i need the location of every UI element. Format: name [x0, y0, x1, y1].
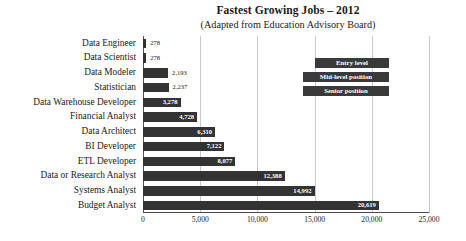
x-tick-label: 20,000 [361, 216, 382, 224]
bar: 6,310 [143, 127, 215, 137]
chart-title-block: Fastest Growing Jobs – 2012 (Adapted fro… [143, 4, 433, 31]
bar-value-label: 2,193 [172, 70, 187, 77]
bar-value-label: 14,992 [293, 188, 314, 195]
bar-row: 12,388 [143, 171, 429, 181]
category-label: Data Warehouse Developer [0, 98, 139, 107]
bar: 14,992 [143, 186, 315, 196]
x-axis-tick-labels: 05,00010,00015,00020,00025,000 [0, 216, 466, 230]
category-label: Data or Research Analyst [0, 171, 139, 180]
category-label: Data Modeler [0, 68, 139, 77]
category-label: Data Architect [0, 127, 139, 136]
gridline-25000 [429, 36, 430, 213]
bar-row: 278 [143, 39, 429, 49]
legend-item[interactable]: Entry level [315, 58, 389, 68]
bar [143, 53, 146, 63]
legend-item[interactable]: Senior position [303, 86, 389, 96]
bar-value-label: 20,619 [358, 202, 379, 209]
category-label: Data Engineer [0, 39, 139, 48]
bar: 20,619 [143, 201, 379, 211]
x-tick-label: 15,000 [304, 216, 325, 224]
bar: 8,077 [143, 157, 235, 167]
category-label: BI Developer [0, 142, 139, 151]
bar: 7,122 [143, 142, 224, 152]
category-label: Systems Analyst [0, 186, 139, 195]
x-tick-label: 0 [141, 216, 145, 224]
legend-item[interactable]: Mid-level position [303, 72, 389, 82]
bar-row: 7,122 [143, 142, 429, 152]
plot-area: 2782782,1932,2373,2784,7286,3107,1228,07… [143, 36, 429, 213]
bar: 3,278 [143, 98, 181, 108]
y-axis-category-labels: Data EngineerData ScientistData ModelerS… [0, 36, 139, 213]
chart-container: Fastest Growing Jobs – 2012 (Adapted fro… [0, 0, 466, 241]
bar-value-label: 12,388 [264, 173, 285, 180]
bar [143, 68, 168, 78]
bar-row: 4,728 [143, 112, 429, 122]
bar-value-label: 6,310 [197, 129, 215, 136]
bar [143, 83, 169, 93]
bar-value-label: 3,278 [163, 99, 181, 106]
bar-row: 14,992 [143, 186, 429, 196]
bar-value-label: 278 [150, 55, 160, 62]
bar-value-label: 7,122 [207, 143, 225, 150]
x-tick-label: 5,000 [192, 216, 209, 224]
bar-row: 8,077 [143, 157, 429, 167]
category-label: Financial Analyst [0, 112, 139, 121]
chart-title: Fastest Growing Jobs – 2012 [143, 4, 433, 18]
bar-value-label: 278 [150, 40, 160, 47]
category-label: ETL Developer [0, 157, 139, 166]
bar [143, 39, 146, 49]
bar-row: 20,619 [143, 201, 429, 211]
x-tick-label: 10,000 [247, 216, 268, 224]
bar-value-label: 2,237 [173, 84, 188, 91]
x-tick-label: 25,000 [419, 216, 440, 224]
category-label: Statistician [0, 83, 139, 92]
bar: 12,388 [143, 171, 285, 181]
x-axis-line [143, 212, 429, 213]
bar-row: 3,278 [143, 98, 429, 108]
bar: 4,728 [143, 112, 197, 122]
chart-subtitle: (Adapted from Education Advisory Board) [143, 19, 433, 31]
category-label: Data Scientist [0, 53, 139, 62]
category-label: Budget Analyst [0, 201, 139, 210]
bar-row: 6,310 [143, 127, 429, 137]
bar-value-label: 4,728 [179, 114, 197, 121]
bar-value-label: 8,077 [218, 158, 236, 165]
